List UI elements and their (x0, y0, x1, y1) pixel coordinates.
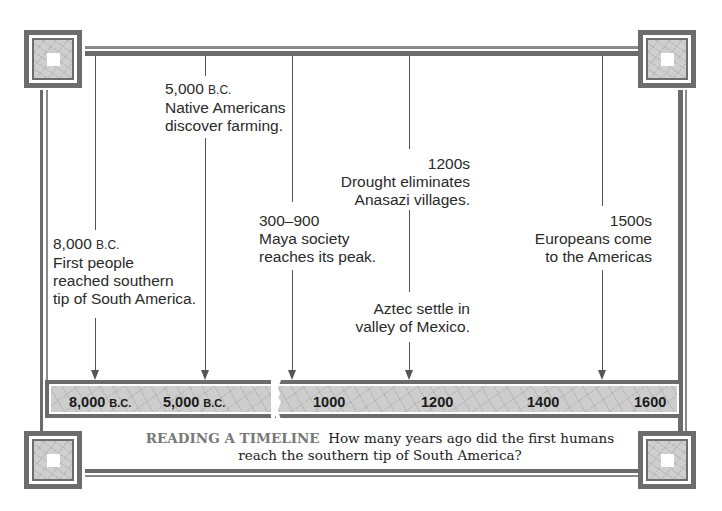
arrow-down-icon (91, 370, 99, 380)
event-date: 300–900 (259, 212, 376, 230)
event-date: 1500s (500, 212, 652, 230)
event-text-line: Maya society (259, 230, 376, 248)
event-text-line: Native Americans (165, 99, 286, 117)
axis-label-1000: 1000 (313, 394, 345, 410)
event-connector-1200s-mid (409, 210, 410, 292)
reading-timeline-caption: READING A TIMELINE How many years ago di… (100, 430, 660, 464)
frame-left-border-thin (46, 90, 48, 380)
arrow-down-icon (405, 370, 413, 380)
event-text-line: reaches its peak. (259, 248, 376, 266)
event-label-300-900: 300–900 Maya society reaches its peak. (259, 212, 376, 266)
arrow-down-icon (598, 370, 606, 380)
event-text-line: reached southern (53, 272, 196, 290)
event-label-5000bc: 5,000 B.C. Native Americans discover far… (165, 80, 286, 135)
axis-break-icon (271, 380, 283, 420)
event-label-1500s: 1500s Europeans come to the Americas (500, 212, 652, 266)
frame-right-border-thin (685, 90, 687, 431)
event-connector-1200s (409, 56, 410, 149)
event-label-1200s: 1200s Drought eliminates Anasazi village… (330, 155, 470, 209)
event-label-8000bc: 8,000 B.C. First people reached southern… (53, 235, 196, 308)
axis-label-1200: 1200 (421, 394, 453, 410)
event-date: 5,000 (165, 80, 204, 97)
event-label-aztec: Aztec settle in valley of Mexico. (330, 300, 470, 336)
event-text-line: First people (53, 254, 196, 272)
frame-top-border-thick (85, 51, 638, 56)
corner-ornament-bottom-left (24, 431, 82, 489)
arrow-down-icon (288, 370, 296, 380)
event-date: 8,000 (53, 235, 92, 252)
event-text-line: discover farming. (165, 117, 286, 135)
event-text-line: Europeans come (500, 230, 652, 248)
event-connector-5000bc (205, 56, 206, 76)
event-connector-5000bc-lower (205, 138, 206, 372)
frame-top-border (85, 46, 638, 49)
axis-label-8000bc: 8,000 B.C. (69, 394, 131, 410)
event-text-line: Drought eliminates (330, 173, 470, 191)
event-era: B.C. (96, 238, 119, 252)
event-connector-aztec-lower (409, 342, 410, 372)
caption-question-line1: How many years ago did the first humans (328, 430, 614, 446)
corner-ornament-top-left (24, 30, 82, 88)
corner-ornament-top-right (638, 30, 696, 88)
event-text-line: Aztec settle in (330, 300, 470, 318)
event-connector-1500s-lower (602, 270, 603, 372)
axis-label-5000bc: 5,000 B.C. (163, 394, 225, 410)
frame-left-border (40, 90, 43, 431)
event-connector-8000bc-lower (95, 318, 96, 372)
event-era: B.C. (208, 83, 231, 97)
caption-keyword: READING A TIMELINE (146, 430, 320, 446)
event-text-line: to the Americas (500, 248, 652, 266)
frame-bottom-border-thin (85, 475, 638, 477)
event-connector-300-900 (292, 56, 293, 202)
frame-bottom-border (85, 469, 638, 473)
event-text-line: tip of South America. (53, 290, 196, 308)
event-date: 1200s (330, 155, 470, 173)
event-text-line: Anasazi villages. (330, 191, 470, 209)
timeline-axis-bar: 8,000 B.C. 5,000 B.C. 1000 1200 1400 160… (45, 380, 683, 418)
arrow-down-icon (201, 370, 209, 380)
event-connector-1500s (602, 56, 603, 206)
axis-label-1600: 1600 (634, 394, 666, 410)
event-connector-8000bc (95, 56, 96, 230)
event-connector-300-900-lower (292, 270, 293, 372)
event-text-line: valley of Mexico. (330, 318, 470, 336)
axis-label-1400: 1400 (527, 394, 559, 410)
caption-question-line2: reach the southern tip of South America? (100, 447, 660, 464)
